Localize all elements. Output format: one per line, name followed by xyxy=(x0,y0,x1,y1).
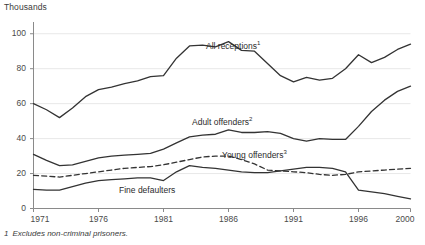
y-tick-label: 60 xyxy=(4,98,26,108)
series-label-text: All receptions xyxy=(206,41,257,51)
series-label-footnote-marker: 1 xyxy=(257,40,260,46)
x-tick-label: 1996 xyxy=(344,214,374,224)
y-tick-label: 40 xyxy=(4,133,26,143)
series-label-text: Fine defaulters xyxy=(119,185,175,195)
series-label-young-offenders: Young offenders3 xyxy=(222,150,287,160)
chart-page: Thousands 020406080100 19711976198119861… xyxy=(0,0,425,245)
series-label-all-receptions: All receptions1 xyxy=(206,41,260,51)
series-label-footnote-marker: 3 xyxy=(283,149,286,155)
series-label-adult-offenders: Adult offenders2 xyxy=(192,117,252,127)
y-tick-label: 20 xyxy=(4,168,26,178)
x-tick-label: 1971 xyxy=(31,214,61,224)
series-label-text: Adult offenders xyxy=(192,117,249,127)
x-tick-label: 1976 xyxy=(84,214,114,224)
x-tick-label: 1986 xyxy=(214,214,244,224)
series-line-fine-defaulters xyxy=(34,166,411,199)
x-tick-label: 1991 xyxy=(279,214,309,224)
y-tick-label: 80 xyxy=(4,63,26,73)
series-label-fine-defaulters: Fine defaulters xyxy=(119,185,175,195)
x-tick-label: 1981 xyxy=(149,214,179,224)
footnote-number: 1 xyxy=(4,229,8,238)
series-line-all-receptions xyxy=(34,42,411,118)
y-tick-label: 0 xyxy=(4,203,26,213)
y-tick-label: 100 xyxy=(4,28,26,38)
footnote-text: Excludes non-criminal prisoners. xyxy=(12,229,128,238)
series-label-text: Young offenders xyxy=(222,150,283,160)
x-tick-label: 2000 xyxy=(385,214,415,224)
series-label-footnote-marker: 2 xyxy=(249,116,252,122)
footnote: 1Excludes non-criminal prisoners. xyxy=(4,229,128,238)
